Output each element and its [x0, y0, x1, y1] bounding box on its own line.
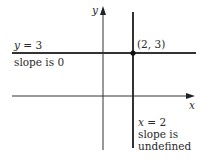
coordinate-diagram	[0, 0, 210, 162]
intersection-point	[130, 50, 135, 55]
vertical-line-equation: x = 2	[138, 117, 166, 128]
horizontal-line-equation: y = 3	[14, 40, 42, 51]
vertical-line-slope-2: undefined	[138, 141, 191, 152]
horizontal-line-slope: slope is 0	[14, 57, 64, 68]
y-axis	[100, 6, 106, 150]
y-axis-arrow-icon	[100, 6, 106, 15]
equation-rest: = 2	[144, 116, 166, 128]
intersection-label: (2, 3)	[137, 39, 165, 50]
equation-rest: = 3	[20, 39, 42, 51]
x-axis-label: x	[189, 100, 195, 111]
vertical-line-slope-1: slope is	[138, 129, 178, 140]
y-axis-label: y	[92, 5, 98, 16]
